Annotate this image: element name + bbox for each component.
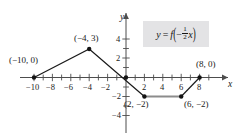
formula-minus: −: [176, 29, 182, 40]
point-6-neg2: [179, 94, 183, 98]
ytick-label-2: 2: [116, 54, 120, 63]
point-label-neg10-0: (−10, 0): [9, 56, 38, 65]
formula-close-paren: ): [193, 25, 196, 43]
graph-figure: y x −10 −8 −6 −4 −2 2 4 6 8 4 2 −2 −4 (−…: [0, 0, 244, 140]
formula-open-paren: (: [173, 25, 176, 43]
xtick-label-6: 6: [179, 83, 183, 92]
x-axis-label: x: [228, 80, 232, 90]
formula-numerator: 1: [182, 26, 188, 33]
xtick-label-4: 4: [160, 83, 164, 92]
formula-callout-text: y = f ( − 1 2 x ): [143, 21, 209, 47]
xtick-label-neg4: −4: [83, 83, 92, 92]
xtick-label-neg6: −6: [64, 83, 73, 92]
point-label-neg4-3: (−4, 3): [74, 34, 99, 43]
point-label-2-neg2: (2, −2): [124, 100, 149, 109]
xtick-label-8: 8: [197, 83, 201, 92]
point-neg10-0: [32, 75, 36, 79]
xtick-label-neg10: −10: [26, 83, 39, 92]
point-label-8-0: (8, 0): [196, 60, 216, 69]
point-neg4-3: [87, 47, 91, 51]
y-axis-label: y: [120, 13, 124, 23]
y-axis: [122, 13, 129, 133]
xtick-label-neg2: −2: [101, 83, 110, 92]
xtick-label-neg8: −8: [46, 83, 55, 92]
point-label-6-neg2: (6, −2): [184, 100, 209, 109]
ytick-label-neg4: −4: [112, 111, 121, 120]
formula-equals: =: [163, 29, 169, 40]
xtick-label-2: 2: [142, 83, 146, 92]
ytick-label-neg2: −2: [112, 92, 121, 101]
formula-fraction: 1 2: [182, 26, 188, 41]
point-8-0: [197, 75, 201, 79]
point-origin: [124, 75, 128, 79]
formula-denominator: 2: [182, 33, 188, 41]
ytick-label-4: 4: [116, 35, 120, 44]
formula-lhs: y: [156, 29, 160, 40]
